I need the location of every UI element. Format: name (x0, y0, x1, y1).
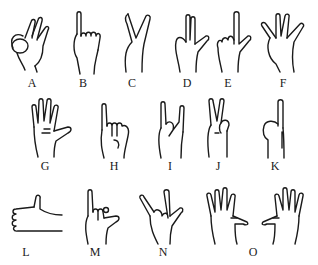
gesture-d-illustration (170, 12, 210, 74)
gesture-c-illustration (120, 12, 156, 74)
gesture-h-illustration (100, 102, 132, 160)
gesture-j-label: J (216, 160, 221, 172)
hand-index-up-icon (260, 98, 290, 160)
hand-v-sign-icon (205, 97, 235, 159)
gesture-m-illustration (82, 188, 122, 246)
gesture-j-illustration (205, 97, 235, 159)
hand-horns-icon (155, 100, 189, 160)
hand-horns-thumb-icon (138, 186, 186, 246)
gesture-k-label: K (271, 160, 280, 172)
hand-ok-icon (5, 8, 55, 73)
hand-v-sign-icon (120, 12, 156, 74)
gesture-i-label: I (168, 160, 172, 172)
gesture-n-label: N (159, 246, 168, 258)
gesture-b-illustration (68, 10, 104, 75)
hand-open-palm-icon (30, 97, 80, 159)
hand-pinky-up-icon (100, 102, 132, 160)
gesture-k-illustration (260, 98, 290, 160)
gesture-g-illustration (30, 97, 80, 159)
gesture-b-label: B (79, 77, 87, 89)
gesture-f-label: F (280, 77, 287, 89)
hand-two-fingers-icon (170, 12, 210, 74)
gesture-i-illustration (155, 100, 189, 160)
hand-thumbs-up-icon (8, 193, 63, 235)
gesture-c-label: C (128, 77, 136, 89)
gesture-o-label: O (249, 246, 258, 258)
gesture-l-label: L (22, 246, 29, 258)
gesture-n-illustration (138, 186, 186, 246)
gesture-m-label: M (90, 246, 101, 258)
hand-two-palms-icon (205, 186, 305, 246)
hand-index-thumb-icon (212, 10, 252, 74)
gesture-f-illustration (258, 12, 310, 74)
gesture-o-illustration (205, 186, 305, 246)
hand-thumb-up-icon (68, 10, 104, 75)
hand-pinky-thumb-icon (82, 188, 122, 246)
gesture-d-label: D (183, 77, 192, 89)
hand-three-fingers-icon (258, 12, 310, 74)
gesture-e-label: E (224, 77, 231, 89)
gesture-a-illustration (5, 8, 55, 73)
gesture-a-label: A (28, 77, 37, 89)
gesture-l-illustration (8, 193, 63, 235)
gesture-e-illustration (212, 10, 252, 74)
gesture-h-label: H (110, 160, 119, 172)
gesture-g-label: G (41, 160, 50, 172)
